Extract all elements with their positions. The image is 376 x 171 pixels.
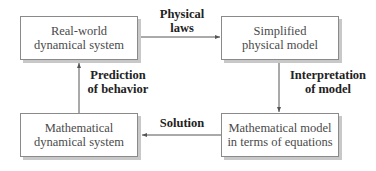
node-simplified-physical-model: Simplified physical model [221,16,339,60]
edge-label-prediction-of-behavior: Prediction of behavior [83,68,153,96]
node-real-world-dynamical-system: Real-world dynamical system [20,16,138,60]
edge-label-line-2: laws [150,21,214,35]
edge-label-line-1: Solution [150,116,214,130]
node-text-line-2: dynamical system [34,38,124,52]
edge-label-interpretation-of-model: Interpretation of model [283,68,373,96]
node-text-line-2: physical model [242,38,318,52]
edge-label-physical-laws: Physical laws [150,7,214,35]
node-text-line-2: in terms of equations [227,135,332,149]
edge-label-line-1: Physical [150,7,214,21]
node-mathematical-model-equations: Mathematical model in terms of equations [221,113,339,157]
node-text-line-1: Real-world [51,24,107,38]
edge-label-line-2: of model [283,82,373,96]
node-text-line-1: Simplified [254,24,307,38]
edge-label-line-1: Prediction [83,68,153,82]
edge-label-line-2: of behavior [83,82,153,96]
node-text-line-2: dynamical system [34,135,124,149]
edge-label-line-1: Interpretation [283,68,373,82]
edge-label-solution: Solution [150,116,214,130]
node-text-line-1: Mathematical [45,121,114,135]
node-mathematical-dynamical-system: Mathematical dynamical system [20,113,138,157]
node-text-line-1: Mathematical model [228,121,331,135]
